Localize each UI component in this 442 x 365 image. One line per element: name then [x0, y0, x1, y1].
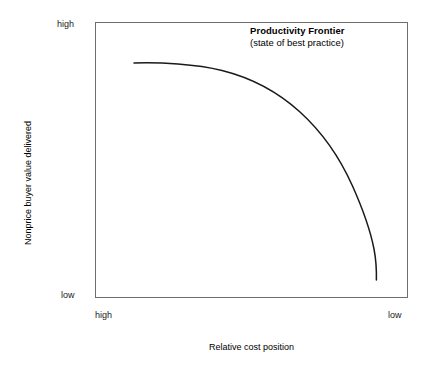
y-axis-label: Nonprice buyer value delivered	[23, 95, 33, 271]
frontier-subtitle: (state of best practice)	[250, 37, 400, 49]
y-axis-tick-low: low	[61, 290, 75, 300]
x-axis-label: Relative cost position	[95, 342, 408, 352]
x-axis-tick-low: low	[388, 310, 402, 320]
productivity-frontier-figure: Productivity Frontier (state of best pra…	[0, 0, 442, 365]
y-axis-tick-high: high	[57, 19, 74, 29]
x-axis-tick-high: high	[95, 310, 112, 320]
frontier-title: Productivity Frontier	[250, 25, 400, 37]
frontier-annotation: Productivity Frontier (state of best pra…	[250, 25, 400, 49]
plot-area-frame	[95, 22, 408, 298]
